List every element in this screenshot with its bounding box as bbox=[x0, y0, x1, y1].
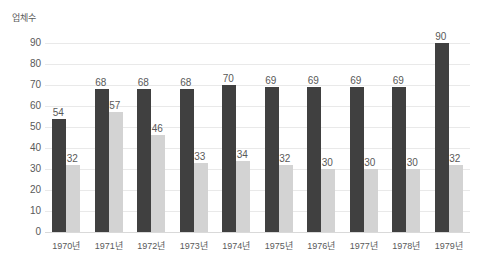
bar-value-label: 32 bbox=[279, 153, 290, 164]
y-axis-tick-label: 0 bbox=[7, 227, 41, 237]
bar-pair: 6930 bbox=[385, 43, 428, 232]
y-axis-tick-label: 10 bbox=[7, 206, 41, 216]
bar-group: 6833 bbox=[173, 43, 216, 232]
bar-value-label: 30 bbox=[364, 157, 375, 168]
x-axis-tick-label: 1977년 bbox=[343, 234, 386, 252]
bar-value-label: 69 bbox=[393, 75, 404, 86]
bar-value-label: 68 bbox=[180, 77, 191, 88]
bar-series-1[interactable]: 69 bbox=[350, 87, 364, 232]
bar-series-2[interactable]: 32 bbox=[66, 165, 80, 232]
bar-pair: 9032 bbox=[428, 43, 471, 232]
bar-series-1[interactable]: 69 bbox=[265, 87, 279, 232]
bar-value-label: 32 bbox=[449, 153, 460, 164]
x-axis-tick-labels: 1970년1971년1972년1973년1974년1975년1976년1977년… bbox=[45, 234, 470, 252]
y-axis-tick-label: 70 bbox=[7, 80, 41, 90]
x-axis-tick-label: 1970년 bbox=[45, 234, 88, 252]
bar-series-1[interactable]: 69 bbox=[392, 87, 406, 232]
x-axis-tick-label: 1976년 bbox=[300, 234, 343, 252]
bar-value-label: 33 bbox=[194, 151, 205, 162]
x-axis-tick-label: 1972년 bbox=[130, 234, 173, 252]
x-axis-tick-label: 1973년 bbox=[173, 234, 216, 252]
y-axis-title: 업체수 bbox=[12, 11, 36, 24]
bar-value-label: 34 bbox=[237, 149, 248, 160]
bar-pair: 7034 bbox=[215, 43, 258, 232]
bar-pair: 6930 bbox=[300, 43, 343, 232]
bar-pair: 6846 bbox=[130, 43, 173, 232]
bar-series-2[interactable]: 57 bbox=[109, 112, 123, 232]
axis-baseline bbox=[45, 232, 470, 233]
bar-series-2[interactable]: 30 bbox=[406, 169, 420, 232]
bar-value-label: 68 bbox=[138, 77, 149, 88]
bar-series-1[interactable]: 68 bbox=[95, 89, 109, 232]
x-axis-tick-label: 1979년 bbox=[428, 234, 471, 252]
bar-value-label: 57 bbox=[109, 100, 120, 111]
bar-group: 6846 bbox=[130, 43, 173, 232]
bar-series-1[interactable]: 54 bbox=[52, 119, 66, 232]
bar-group: 9032 bbox=[428, 43, 471, 232]
bar-group: 6857 bbox=[88, 43, 131, 232]
bar-series-2[interactable]: 32 bbox=[279, 165, 293, 232]
bar-group: 7034 bbox=[215, 43, 258, 232]
bar-pair: 6857 bbox=[88, 43, 131, 232]
bar-series-2[interactable]: 30 bbox=[321, 169, 335, 232]
bar-value-label: 32 bbox=[67, 153, 78, 164]
bar-group: 6932 bbox=[258, 43, 301, 232]
bar-pair: 6930 bbox=[343, 43, 386, 232]
bar-series-1[interactable]: 69 bbox=[307, 87, 321, 232]
bar-series-2[interactable]: 33 bbox=[194, 163, 208, 232]
bar-series-2[interactable]: 46 bbox=[151, 135, 165, 232]
bar-value-label: 69 bbox=[308, 75, 319, 86]
bar-series-1[interactable]: 90 bbox=[435, 43, 449, 232]
y-axis-tick-labels: 9080706050403020100 bbox=[0, 43, 41, 232]
x-axis-tick-label: 1978년 bbox=[385, 234, 428, 252]
bar-pair: 6833 bbox=[173, 43, 216, 232]
bar-group: 5432 bbox=[45, 43, 88, 232]
bar-group: 6930 bbox=[300, 43, 343, 232]
bar-pair: 5432 bbox=[45, 43, 88, 232]
x-axis-tick-label: 1975년 bbox=[258, 234, 301, 252]
bar-value-label: 54 bbox=[53, 107, 64, 118]
bar-series-2[interactable]: 34 bbox=[236, 161, 250, 232]
y-axis-tick-label: 50 bbox=[7, 122, 41, 132]
x-axis-tick-label: 1971년 bbox=[88, 234, 131, 252]
bar-value-label: 70 bbox=[223, 73, 234, 84]
bar-series-1[interactable]: 70 bbox=[222, 85, 236, 232]
y-axis-tick-label: 40 bbox=[7, 143, 41, 153]
bar-group: 6930 bbox=[385, 43, 428, 232]
y-axis-tick-label: 20 bbox=[7, 185, 41, 195]
bar-group: 6930 bbox=[343, 43, 386, 232]
bar-series-2[interactable]: 30 bbox=[364, 169, 378, 232]
bar-series-1[interactable]: 68 bbox=[137, 89, 151, 232]
bar-series-1[interactable]: 68 bbox=[180, 89, 194, 232]
bar-chart: 업체수 9080706050403020100 5432685768466833… bbox=[0, 0, 480, 263]
y-axis-tick-label: 90 bbox=[7, 38, 41, 48]
x-axis-tick-label: 1974년 bbox=[215, 234, 258, 252]
bar-series-2[interactable]: 32 bbox=[449, 165, 463, 232]
bar-value-label: 69 bbox=[350, 75, 361, 86]
bar-value-label: 46 bbox=[152, 123, 163, 134]
bar-groups: 5432685768466833703469326930693069309032 bbox=[45, 43, 470, 232]
y-axis-tick-label: 80 bbox=[7, 59, 41, 69]
bar-value-label: 90 bbox=[435, 31, 446, 42]
bar-value-label: 69 bbox=[265, 75, 276, 86]
bar-value-label: 68 bbox=[95, 77, 106, 88]
bar-pair: 6932 bbox=[258, 43, 301, 232]
y-axis-tick-label: 30 bbox=[7, 164, 41, 174]
bar-value-label: 30 bbox=[322, 157, 333, 168]
bar-value-label: 30 bbox=[407, 157, 418, 168]
y-axis-tick-label: 60 bbox=[7, 101, 41, 111]
